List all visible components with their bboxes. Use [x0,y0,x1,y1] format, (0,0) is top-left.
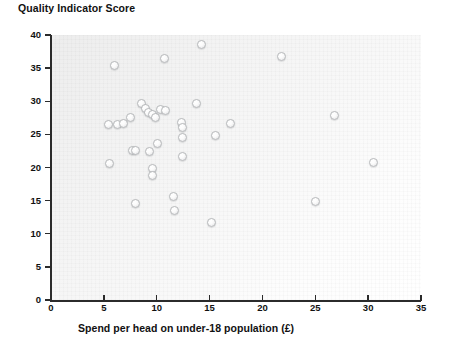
y-tick-label: 30 [17,96,41,106]
y-tick-label: 15 [17,196,41,206]
x-tick-label: 0 [38,303,64,313]
x-tick-label: 5 [91,303,117,313]
y-tick-mark [45,167,51,168]
data-point [161,106,170,115]
data-point [197,40,206,49]
data-point [145,147,154,156]
x-tick-mark [367,295,368,301]
x-tick-mark [50,295,51,301]
x-tick-mark [156,295,157,301]
y-tick-label: 25 [17,129,41,139]
plot-area [51,35,421,300]
data-point [178,123,187,132]
y-tick-mark [45,67,51,68]
x-tick-label: 15 [197,303,223,313]
x-tick-mark [262,295,263,301]
data-point [178,152,187,161]
x-tick-label: 10 [144,303,170,313]
data-point [151,113,160,122]
x-tick-label: 20 [249,303,275,313]
data-point [131,199,140,208]
data-point [126,113,135,122]
y-tick-label: 40 [17,30,41,40]
y-tick-mark [45,200,51,201]
x-tick-mark [103,295,104,301]
data-point [369,158,378,167]
x-axis-label: Spend per head on under-18 population (£… [78,322,294,334]
x-tick-label: 25 [302,303,328,313]
data-point [178,133,187,142]
chart-title: Quality Indicator Score [18,2,135,14]
data-point [153,139,162,148]
data-point [148,171,157,180]
y-tick-mark [45,101,51,102]
data-point [207,218,216,227]
y-tick-label: 35 [17,63,41,73]
x-tick-label: 35 [408,303,434,313]
x-tick-label: 30 [355,303,381,313]
x-tick-mark [209,295,210,301]
data-point [170,206,179,215]
y-tick-label: 20 [17,163,41,173]
data-point [110,61,119,70]
data-point [211,131,220,140]
data-point [105,159,114,168]
data-point [330,111,339,120]
y-tick-label: 10 [17,229,41,239]
y-tick-mark [45,233,51,234]
y-tick-mark [45,34,51,35]
data-point [311,197,320,206]
data-point [104,120,113,129]
y-tick-label: 5 [17,262,41,272]
y-tick-mark [45,134,51,135]
data-point [131,146,140,155]
y-tick-mark [45,266,51,267]
x-tick-mark [315,295,316,301]
data-point [277,52,286,61]
data-point [160,54,169,63]
data-point [226,119,235,128]
x-tick-mark [420,295,421,301]
scatter-chart: Quality Indicator Score 0510152025303540… [0,0,451,348]
data-point [169,192,178,201]
data-point [192,99,201,108]
